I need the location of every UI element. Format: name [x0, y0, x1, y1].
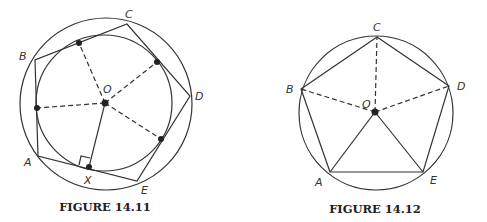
center-point-o [372, 109, 379, 116]
pentagon-abcde [35, 24, 190, 181]
label-x: X [83, 174, 92, 187]
diagram-canvas: C B D A E X O FIGURE 14.11 C B D A E O F… [0, 0, 487, 222]
label-d: D [195, 90, 203, 103]
caption-figure-14-12: FIGURE 14.12 [329, 202, 421, 216]
center-point-o [102, 100, 109, 107]
label-c: C [373, 21, 381, 34]
figure-14-11 [20, 18, 192, 190]
label-e: E [430, 174, 437, 187]
radius-ox [89, 103, 105, 167]
figure-14-12 [299, 36, 453, 190]
label-d: D [457, 80, 465, 93]
label-o: O [362, 98, 371, 111]
label-c: C [125, 8, 133, 21]
caption-figure-14-11: FIGURE 14.11 [59, 200, 151, 214]
label-a: A [23, 156, 32, 169]
label-o: O [103, 83, 112, 96]
radius-oa [330, 112, 375, 172]
label-e: E [141, 184, 148, 197]
label-b: B [286, 83, 294, 96]
radius-oe [375, 112, 423, 172]
tangent-points [34, 40, 164, 170]
label-b: B [19, 50, 27, 63]
right-angle-marker [79, 156, 90, 165]
label-a: A [314, 176, 323, 189]
